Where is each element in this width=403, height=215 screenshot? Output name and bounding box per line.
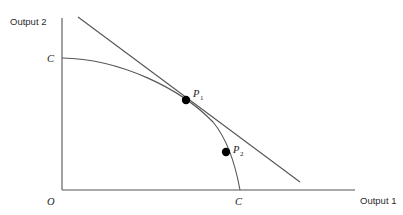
ppf-chart: Output 2 Output 1 C C O P 1 P 2	[0, 0, 403, 215]
figure-container: Output 2 Output 1 C C O P 1 P 2	[0, 0, 403, 215]
point-p2-subscript: 2	[240, 150, 244, 158]
point-p1-marker	[182, 96, 190, 104]
chart-background	[0, 0, 403, 215]
y-intercept-label: C	[47, 53, 55, 64]
point-p2-marker	[222, 148, 230, 156]
point-p2-label: P	[232, 144, 240, 155]
y-axis-label: Output 2	[10, 16, 46, 27]
point-p1-subscript: 1	[200, 94, 204, 102]
origin-label: O	[47, 196, 55, 207]
point-p1-label: P	[192, 88, 200, 99]
x-intercept-label: C	[235, 196, 243, 207]
x-axis-label: Output 1	[360, 195, 396, 206]
